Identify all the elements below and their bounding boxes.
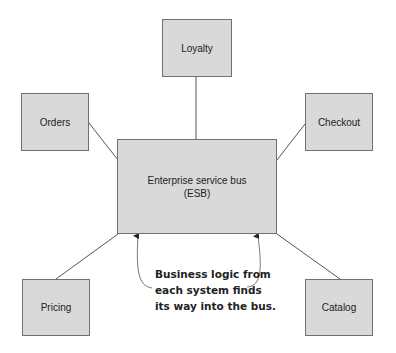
orders-label: Orders bbox=[40, 116, 71, 129]
esb-label-line1: Enterprise service bus bbox=[148, 174, 247, 187]
loyalty-label: Loyalty bbox=[181, 42, 213, 55]
checkout-box: Checkout bbox=[305, 93, 373, 151]
callout-line2: each system finds bbox=[155, 282, 276, 298]
loyalty-box: Loyalty bbox=[162, 19, 232, 77]
callout-line1: Business logic from bbox=[155, 266, 276, 282]
callout-annotation: Business logic from each system finds it… bbox=[155, 266, 276, 314]
pricing-box: Pricing bbox=[22, 279, 90, 336]
catalog-label: Catalog bbox=[322, 301, 356, 314]
esb-label-line2: (ESB) bbox=[184, 187, 211, 200]
checkout-label: Checkout bbox=[318, 116, 360, 129]
catalog-box: Catalog bbox=[305, 279, 373, 336]
callout-line3: its way into the bus. bbox=[155, 298, 276, 314]
pricing-connector bbox=[56, 234, 118, 279]
orders-box: Orders bbox=[21, 93, 89, 151]
esb-box: Enterprise service bus (ESB) bbox=[117, 139, 277, 234]
pricing-label: Pricing bbox=[41, 301, 72, 314]
orders-connector bbox=[89, 123, 118, 160]
left-curved-arrow bbox=[137, 236, 152, 288]
checkout-connector bbox=[277, 124, 305, 160]
catalog-connector bbox=[277, 234, 340, 279]
esb-diagram: Loyalty Orders Checkout Enterprise servi… bbox=[0, 0, 396, 353]
